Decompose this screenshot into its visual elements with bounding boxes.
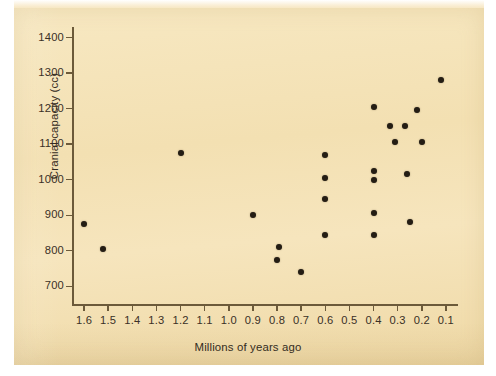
y-tick-label-wrap: 700	[18, 279, 64, 293]
data-point	[371, 168, 377, 174]
x-tick	[228, 304, 229, 311]
data-point	[298, 269, 304, 275]
data-point	[322, 196, 328, 202]
data-point	[100, 246, 106, 252]
data-point	[419, 139, 425, 145]
x-tick	[276, 304, 277, 311]
x-tick	[156, 304, 157, 311]
x-tick	[421, 304, 422, 311]
figure-scatter-cranial-capacity: 70080090010001100120013001400 1.61.51.41…	[0, 0, 496, 376]
data-point	[387, 123, 393, 129]
y-tick	[66, 108, 73, 109]
y-tick	[66, 215, 73, 216]
x-tick	[83, 304, 84, 311]
data-point	[81, 221, 87, 227]
y-axis-title: Cranial capacity (cc)	[48, 46, 60, 206]
data-point	[322, 152, 328, 158]
y-tick	[66, 72, 73, 73]
y-tick-label: 900	[24, 208, 64, 220]
x-tick	[397, 304, 398, 311]
y-tick-label-wrap: 800	[18, 244, 64, 258]
y-tick-label-wrap: 1400	[18, 31, 64, 45]
data-point	[274, 257, 280, 263]
x-tick	[373, 304, 374, 311]
x-tick-label-wrap: 0.1	[431, 314, 461, 329]
y-tick	[66, 37, 73, 38]
y-tick	[66, 286, 73, 287]
data-point	[322, 175, 328, 181]
y-tick	[66, 143, 73, 144]
y-tick-label: 800	[24, 244, 64, 256]
data-point	[438, 77, 444, 83]
y-tick-label: 1400	[24, 31, 64, 43]
x-tick	[132, 304, 133, 311]
data-point	[178, 150, 184, 156]
x-tick	[107, 304, 108, 311]
x-tick	[325, 304, 326, 311]
y-tick-label-wrap: 900	[18, 208, 64, 222]
y-axis-line	[72, 27, 74, 305]
x-axis-title: Millions of years ago	[0, 341, 496, 353]
x-tick	[300, 304, 301, 311]
y-tick	[66, 250, 73, 251]
data-point	[371, 177, 377, 183]
data-point	[407, 219, 413, 225]
data-point	[371, 232, 377, 238]
data-point	[414, 107, 420, 113]
data-point	[371, 104, 377, 110]
plot-axes: 70080090010001100120013001400 1.61.51.41…	[0, 0, 496, 376]
data-point	[371, 210, 377, 216]
x-tick	[180, 304, 181, 311]
x-tick	[349, 304, 350, 311]
data-point	[392, 139, 398, 145]
y-tick	[66, 179, 73, 180]
data-point	[322, 232, 328, 238]
y-tick-label: 700	[24, 279, 64, 291]
data-point	[404, 171, 410, 177]
x-tick	[445, 304, 446, 311]
data-point	[276, 244, 282, 250]
data-point	[250, 212, 256, 218]
x-tick-label: 0.1	[431, 314, 461, 326]
x-axis-line	[72, 304, 458, 306]
x-tick	[204, 304, 205, 311]
data-point	[402, 123, 408, 129]
x-tick	[252, 304, 253, 311]
